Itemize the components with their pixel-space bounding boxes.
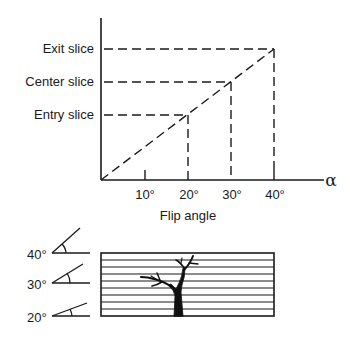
- y-label-entry: Entry slice: [34, 107, 94, 122]
- y-label-exit: Exit slice: [43, 41, 94, 56]
- x-tick-label-40: 40°: [265, 187, 285, 202]
- angle-label-20: 20°: [27, 310, 47, 325]
- alpha-symbol: α: [325, 170, 337, 190]
- y-label-center: Center slice: [25, 74, 94, 89]
- x-tick-label-10: 10°: [135, 187, 155, 202]
- x-tick-label-30: 30°: [222, 187, 242, 202]
- angle-30-icon: [52, 264, 90, 283]
- angle-40-icon: [52, 228, 90, 253]
- slab: [101, 253, 274, 316]
- angle-icons: [52, 228, 90, 316]
- x-ticks: [145, 170, 274, 180]
- x-axis-title: Flip angle: [160, 208, 216, 223]
- axes: [101, 18, 324, 180]
- angle-20-icon: [52, 303, 90, 316]
- angle-label-40: 40°: [27, 247, 47, 262]
- slab-outline: [101, 253, 274, 316]
- dashed-lines: [101, 49, 274, 180]
- x-tick-label-20: 20°: [179, 187, 199, 202]
- ramped-flip-angle-diagram: Exit slice Center slice Entry slice 10° …: [0, 0, 350, 339]
- angle-label-30: 30°: [27, 277, 47, 292]
